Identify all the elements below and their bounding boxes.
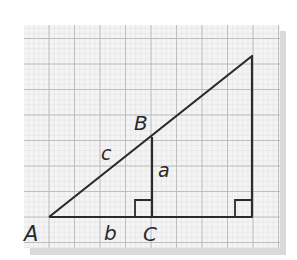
label-vertex-b: B bbox=[134, 111, 148, 135]
label-side-a: a bbox=[158, 159, 170, 181]
label-vertex-c: C bbox=[143, 222, 157, 246]
triangle-diagram: A B C a b c bbox=[0, 0, 297, 260]
label-side-c: c bbox=[101, 142, 112, 164]
label-vertex-a: A bbox=[22, 222, 38, 246]
label-side-b: b bbox=[104, 221, 117, 245]
diagram-canvas: A B C a b c bbox=[0, 0, 297, 260]
